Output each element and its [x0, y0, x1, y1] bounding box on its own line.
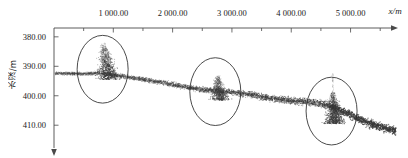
data-point-cloud [55, 43, 397, 136]
x-axis-label: x/m [388, 6, 402, 16]
scatter-plot-canvas [0, 0, 408, 158]
x-axis-arrow-icon [391, 25, 398, 31]
x-tick-label: 5 000.00 [336, 8, 366, 18]
x-tick-label: 4 000.00 [276, 8, 306, 18]
figure-container: x/m 水深/m 1 000.002 000.003 000.004 000.0… [0, 0, 408, 158]
y-tick-label: 380.00 [0, 32, 46, 42]
y-axis-arrow-icon [51, 149, 57, 156]
y-tick-label: 410.00 [0, 120, 46, 130]
x-tick-label: 3 000.00 [217, 8, 247, 18]
y-tick-label: 390.00 [0, 61, 46, 71]
x-tick-label: 2 000.00 [158, 8, 188, 18]
x-tick-label: 1 000.00 [98, 8, 128, 18]
y-tick-label: 400.00 [0, 91, 46, 101]
